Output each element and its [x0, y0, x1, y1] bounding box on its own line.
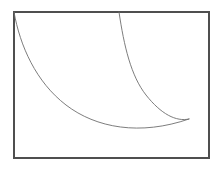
curve-layer — [0, 0, 224, 172]
outer-left-curve — [14, 12, 189, 128]
inner-right-curve — [119, 12, 189, 120]
figure-canvas — [0, 0, 224, 172]
